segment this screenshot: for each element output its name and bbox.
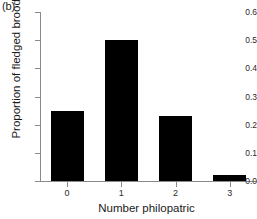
y-tick-mark xyxy=(35,181,40,182)
figure-panel-b: (b) Proportion of fledged broods 0.00.10… xyxy=(0,0,257,219)
plot-area xyxy=(40,12,257,181)
x-tick-mark xyxy=(230,182,231,187)
x-tick-label: 1 xyxy=(106,188,136,198)
x-tick-label: 3 xyxy=(215,188,245,198)
x-tick-mark xyxy=(121,182,122,187)
x-axis-title: Number philopatric xyxy=(36,202,257,214)
bar-3 xyxy=(213,175,246,181)
y-axis-title: Proportion of fledged broods xyxy=(10,0,22,146)
x-tick-label: 2 xyxy=(161,188,191,198)
bar-2 xyxy=(159,116,192,181)
x-tick-label: 0 xyxy=(52,188,82,198)
bar-1 xyxy=(105,40,138,181)
x-tick-mark xyxy=(176,182,177,187)
x-tick-mark xyxy=(67,182,68,187)
bar-0 xyxy=(51,111,84,181)
